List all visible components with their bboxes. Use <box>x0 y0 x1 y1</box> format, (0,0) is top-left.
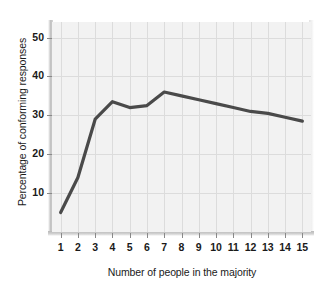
y-tick-mark <box>47 76 52 77</box>
gridline-vertical <box>164 22 165 232</box>
x-axis-title: Number of people in the majority <box>52 266 312 278</box>
x-tick-mark <box>95 233 96 238</box>
x-tick-mark <box>251 233 252 238</box>
gridline-vertical <box>78 22 79 232</box>
x-tick-mark <box>302 233 303 238</box>
gridline-vertical <box>302 22 303 232</box>
x-tick-mark <box>199 233 200 238</box>
gridline-horizontal <box>52 193 311 194</box>
gridline-vertical <box>199 22 200 232</box>
gridline-vertical <box>130 22 131 232</box>
gridline-horizontal <box>52 115 311 116</box>
x-tick-mark <box>285 233 286 238</box>
gridline-horizontal <box>52 38 311 39</box>
plot-area <box>52 22 311 232</box>
gridline-vertical <box>61 22 62 232</box>
gridline-vertical <box>95 22 96 232</box>
y-tick-mark <box>47 193 52 194</box>
x-tick-mark <box>130 233 131 238</box>
x-tick-mark <box>61 233 62 238</box>
x-tick-mark <box>182 233 183 238</box>
y-tick-mark <box>47 38 52 39</box>
gridline-horizontal <box>52 76 311 77</box>
x-tick-mark <box>147 233 148 238</box>
gridline-vertical <box>147 22 148 232</box>
y-tick-mark <box>47 154 52 155</box>
gridline-vertical <box>112 22 113 232</box>
gridline-vertical <box>251 22 252 232</box>
gridline-horizontal <box>52 154 311 155</box>
x-tick-mark <box>78 233 79 238</box>
x-tick-mark <box>112 233 113 238</box>
gridline-vertical <box>216 22 217 232</box>
x-tick-mark <box>268 233 269 238</box>
gridline-vertical <box>233 22 234 232</box>
x-tick-mark <box>233 233 234 238</box>
y-tick-mark <box>47 115 52 116</box>
gridline-vertical <box>285 22 286 232</box>
chart-figure: 1020304050 123456789101112131415 Percent… <box>0 0 328 289</box>
x-tick-label: 15 <box>291 241 313 253</box>
x-tick-mark <box>164 233 165 238</box>
x-tick-mark <box>216 233 217 238</box>
gridline-vertical <box>268 22 269 232</box>
y-axis-title: Percentage of conforming responses <box>14 6 30 238</box>
gridline-vertical <box>182 22 183 232</box>
